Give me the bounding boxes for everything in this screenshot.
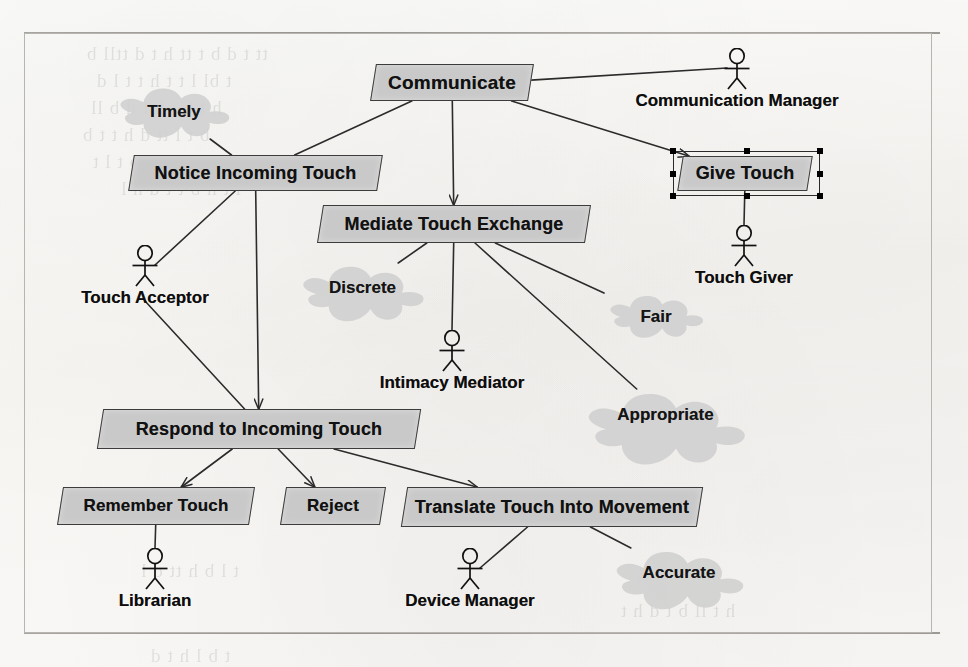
soft-goal-label: Timely	[147, 102, 201, 122]
soft-goal-label: Accurate	[643, 563, 716, 583]
edge-translate-to-accurate[interactable]	[591, 527, 631, 548]
actor-stick-figure-icon	[128, 245, 162, 287]
soft-goal-timely[interactable]: Timely	[113, 85, 235, 139]
edge-mediate-to-intimacy-mediator[interactable]	[452, 243, 454, 330]
actor-label: Touch Giver	[695, 268, 793, 288]
use-case-label: Communicate	[382, 72, 522, 94]
soft-goal-discrete[interactable]: Discrete	[295, 263, 430, 313]
soft-goal-appropriate[interactable]: Appropriate	[578, 389, 753, 441]
actor-touch-giver[interactable]: Touch Giver	[654, 225, 834, 288]
edge-communicate-to-notice[interactable]	[295, 101, 412, 155]
scanned-page: tt t d b t tt h t d ttll bt bl l t t h t…	[0, 0, 968, 667]
actor-stick-figure-icon	[435, 330, 469, 372]
use-case-mediate[interactable]: Mediate Touch Exchange	[320, 205, 588, 243]
actor-device-manager[interactable]: Device Manager	[380, 548, 560, 611]
edge-notice-to-timely[interactable]	[210, 139, 231, 155]
use-case-label: Give Touch	[690, 163, 801, 184]
edge-mediate-to-fair[interactable]	[495, 243, 604, 293]
use-case-label: Reject	[301, 496, 365, 516]
actor-touch-acceptor[interactable]: Touch Acceptor	[55, 245, 235, 308]
edge-respond-to-translate[interactable]	[334, 449, 477, 487]
soft-goal-label: Discrete	[329, 278, 396, 298]
selection-handle[interactable]	[817, 171, 823, 177]
selection-handle[interactable]	[670, 148, 676, 154]
use-case-respond[interactable]: Respond to Incoming Touch	[100, 409, 418, 449]
use-case-remember[interactable]: Remember Touch	[60, 487, 252, 525]
edge-communicate-to-mediate[interactable]	[452, 101, 453, 205]
edge-respond-to-reject[interactable]	[278, 449, 315, 487]
selection-handle[interactable]	[670, 171, 676, 177]
actor-label: Device Manager	[405, 591, 534, 611]
use-case-give[interactable]: Give Touch	[680, 156, 810, 191]
use-case-label: Translate Touch Into Movement	[409, 497, 696, 518]
use-case-communicate[interactable]: Communicate	[373, 64, 531, 101]
use-case-notice[interactable]: Notice Incoming Touch	[131, 155, 380, 191]
edge-respond-to-remember[interactable]	[181, 449, 232, 487]
use-case-label: Notice Incoming Touch	[149, 163, 363, 184]
actor-librarian[interactable]: Librarian	[65, 548, 245, 611]
edge-mediate-to-discrete[interactable]	[398, 243, 427, 263]
edge-remember-to-librarian[interactable]	[155, 525, 156, 548]
selection-handle[interactable]	[817, 193, 823, 199]
actor-stick-figure-icon	[138, 548, 172, 590]
use-case-label: Respond to Incoming Touch	[130, 419, 389, 440]
selection-handle[interactable]	[744, 193, 750, 199]
actor-intimacy-mediator[interactable]: Intimacy Mediator	[362, 330, 542, 393]
soft-goal-label: Fair	[640, 307, 671, 327]
actor-label: Librarian	[119, 591, 192, 611]
actor-stick-figure-icon	[720, 48, 754, 90]
selection-handle[interactable]	[817, 148, 823, 154]
use-case-label: Mediate Touch Exchange	[338, 214, 569, 235]
soft-goal-label: Appropriate	[617, 405, 713, 425]
use-case-reject[interactable]: Reject	[283, 487, 383, 525]
actor-stick-figure-icon	[453, 548, 487, 590]
edge-touch-acceptor-to-respond[interactable]	[145, 301, 245, 409]
edge-notice-to-respond[interactable]	[256, 191, 259, 409]
soft-goal-accurate[interactable]: Accurate	[608, 548, 750, 598]
actor-stick-figure-icon	[727, 225, 761, 267]
actor-communication-manager[interactable]: Communication Manager	[647, 48, 827, 111]
actor-label: Touch Acceptor	[81, 288, 209, 308]
actor-label: Communication Manager	[635, 91, 838, 111]
actor-label: Intimacy Mediator	[380, 373, 525, 393]
use-case-label: Remember Touch	[77, 496, 234, 516]
soft-goal-fair[interactable]: Fair	[604, 293, 708, 341]
selection-handle[interactable]	[670, 193, 676, 199]
use-case-translate[interactable]: Translate Touch Into Movement	[404, 487, 700, 527]
selection-handle[interactable]	[744, 148, 750, 154]
